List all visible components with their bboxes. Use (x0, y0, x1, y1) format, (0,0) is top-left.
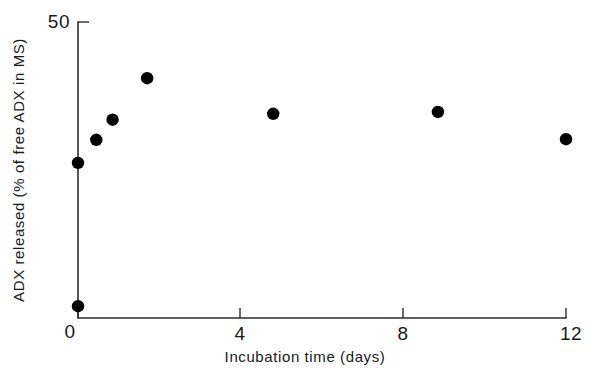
data-point (72, 300, 84, 312)
data-point (72, 157, 84, 169)
plot-axes (78, 22, 566, 318)
data-point (432, 106, 444, 118)
y-axis-title: ADX released (% of free ADX in MS) (10, 38, 27, 302)
data-point (560, 133, 572, 145)
data-point (106, 113, 118, 125)
x-axis-title: Incubation time (days) (225, 348, 386, 365)
y-tick-label-50: 50 (48, 11, 70, 32)
chart-figure: 50 0 4 8 12 Incubation time (days) ADX r… (0, 0, 603, 375)
y-tick-label-0: 0 (64, 321, 75, 342)
data-point (90, 134, 102, 146)
data-point (141, 72, 153, 84)
scatter-plot: 50 0 4 8 12 Incubation time (days) ADX r… (0, 0, 603, 375)
data-points-group (72, 72, 572, 312)
x-tick-label-4: 4 (234, 323, 245, 344)
x-tick-label-8: 8 (397, 323, 408, 344)
x-tick-label-12: 12 (560, 323, 582, 344)
data-point (267, 108, 279, 120)
